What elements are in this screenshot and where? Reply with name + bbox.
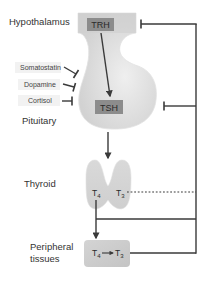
thyroid-label: Thyroid <box>24 178 56 189</box>
inhibitor-somatostatin: Somatostatin <box>15 62 79 78</box>
pituitary-label: Pituitary <box>22 115 57 126</box>
trh-label: TRH <box>91 20 110 30</box>
tsh-label: TSH <box>100 103 118 113</box>
cortisol-label: Cortisol <box>28 97 52 104</box>
peripheral-tissues-node: T4 T3 <box>84 240 130 267</box>
thyroid-shape <box>86 160 131 209</box>
dopamine-label: Dopamine <box>24 81 56 89</box>
feedback-inhibit-pituitary <box>164 102 196 111</box>
inhibitor-cortisol: Cortisol <box>18 95 72 106</box>
peripheral-label-line2: tissues <box>30 253 60 264</box>
peripheral-label-line1: Peripheral <box>30 241 73 252</box>
somatostatin-label: Somatostatin <box>20 64 61 71</box>
inhibitor-dopamine: Dopamine <box>18 79 76 92</box>
thyroid-axis-diagram: TRH TSH Hypothalamus Somatostatin Dopami… <box>0 0 210 282</box>
feedback-inhibit-hypothalamus <box>141 20 197 29</box>
hypothalamus-label: Hypothalamus <box>9 16 70 27</box>
tsh-node: TSH <box>95 100 123 114</box>
trh-node: TRH <box>87 18 114 31</box>
